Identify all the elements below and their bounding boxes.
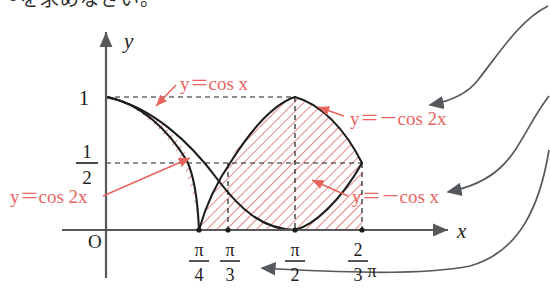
svg-text:3: 3: [354, 265, 363, 285]
callout-arrow-middle: [448, 96, 549, 192]
svg-text:π: π: [367, 261, 376, 281]
svg-text:3: 3: [226, 265, 235, 285]
x-tick-pi-3: π 3: [220, 240, 240, 285]
svg-text:4: 4: [195, 265, 204, 285]
y-axis-label: y: [122, 29, 134, 53]
tick-dot-2pi-3: [359, 227, 364, 232]
math-figure-svg: y x O 1 1 2 π 4 π 3 π 2 2: [0, 0, 550, 288]
svg-text:π: π: [194, 240, 203, 260]
tick-dot-pi-3: [225, 227, 230, 232]
x-tick-pi-2: π 2: [285, 240, 305, 285]
x-tick-pi-4: π 4: [189, 240, 209, 285]
curve-label-cos-2x: y＝cos 2x: [10, 186, 88, 207]
tick-dot-pi-4: [196, 227, 201, 232]
tick-dot-pi-2: [292, 227, 297, 232]
y-tick-1: 1: [79, 86, 90, 110]
x-axis-label: x: [456, 219, 467, 243]
origin-label: O: [88, 231, 102, 252]
svg-text:2: 2: [354, 240, 363, 260]
figure-stage: 〜を求めなさい。: [0, 0, 550, 288]
x-tick-2pi-3: 2 3 π: [348, 240, 377, 285]
svg-text:2: 2: [82, 167, 92, 188]
callout-arrow-top: [430, 6, 548, 105]
leader-cos-2x: [103, 158, 190, 196]
svg-text:π: π: [225, 240, 234, 260]
curve-label-neg-cos-2x: y＝－cos 2x: [350, 108, 447, 129]
svg-text:2: 2: [291, 265, 300, 285]
svg-text:π: π: [290, 240, 299, 260]
svg-text:1: 1: [82, 141, 92, 162]
y-tick-one-half: 1 2: [76, 141, 98, 188]
leader-cos-x: [156, 85, 176, 106]
curve-label-cos-x: y＝cos x: [180, 73, 249, 94]
curve-label-neg-cos-x: y＝－cos x: [352, 186, 440, 207]
